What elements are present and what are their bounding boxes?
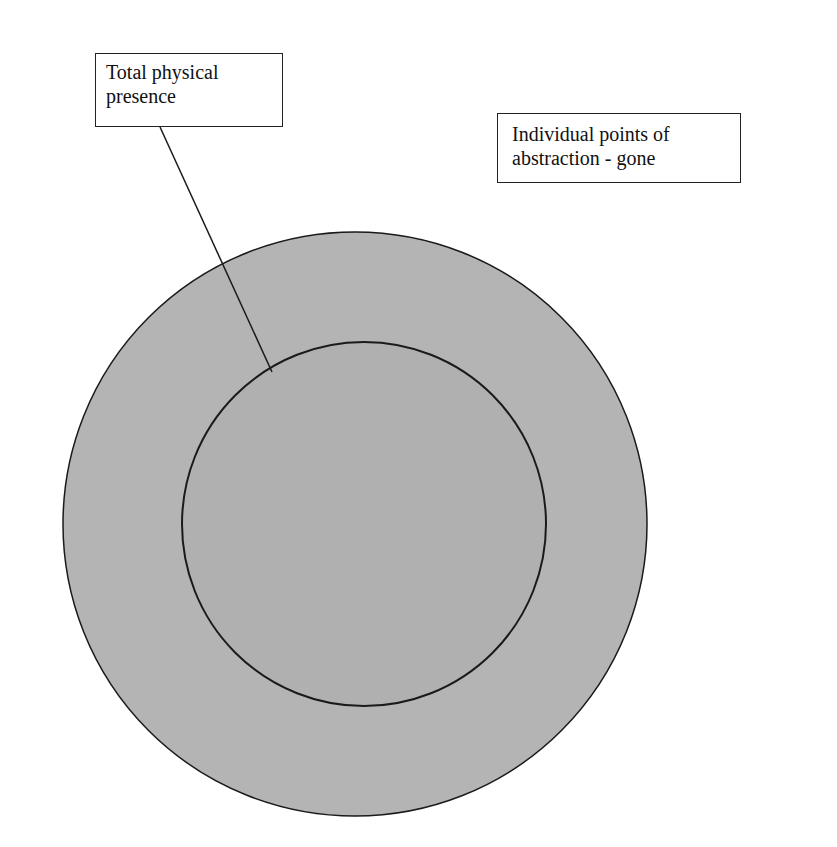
label-total-physical-presence: Total physical presence	[95, 53, 283, 127]
label-line: abstraction - gone	[512, 146, 726, 170]
label-line: presence	[106, 84, 272, 108]
label-line: Total physical	[106, 60, 272, 84]
inner-circle	[182, 342, 546, 706]
label-line: Individual points of	[512, 122, 726, 146]
label-individual-points-of-abstraction: Individual points of abstraction - gone	[497, 113, 741, 183]
